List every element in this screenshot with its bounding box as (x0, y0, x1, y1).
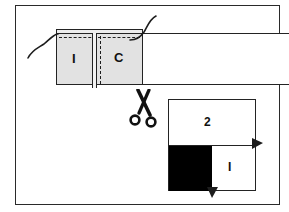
scissors-icon (126, 89, 162, 129)
fold-dashed-line (100, 36, 101, 84)
thread-right-icon (128, 14, 173, 42)
diagram-frame: I C 2 I (15, 5, 280, 205)
panel-label-c: C (114, 51, 123, 64)
thread-left-icon (26, 24, 71, 59)
square-label-i: I (228, 161, 231, 173)
square-label-2: 2 (204, 116, 211, 128)
fold-flap (92, 33, 97, 88)
arrow-right-icon (251, 137, 265, 151)
arrow-bottom-icon (206, 186, 220, 200)
figure-root: I C 2 I (0, 0, 289, 212)
black-block (169, 146, 212, 191)
panel-label-i: I (72, 52, 76, 65)
